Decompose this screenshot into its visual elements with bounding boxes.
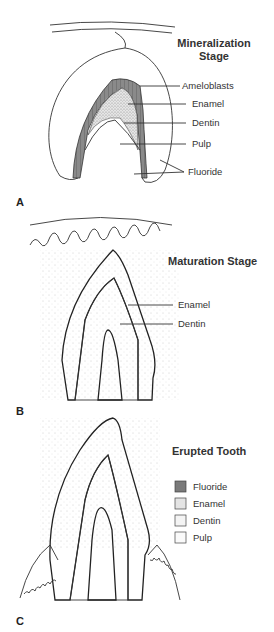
label-pulp: Pulp <box>192 138 211 149</box>
gingiva-left-wavy <box>24 580 56 594</box>
enamel-layer <box>88 88 138 150</box>
gubernacular-cord <box>115 32 126 48</box>
legend-label-enamel: Enamel <box>193 498 225 509</box>
label-dentin: Dentin <box>192 117 219 128</box>
epithelium-line <box>50 22 175 27</box>
oral-epithelium-line <box>30 218 172 226</box>
label-fluoride: Fluoride <box>188 166 222 177</box>
panel-b: Maturation Stage Enamel Dentin B <box>16 218 257 418</box>
gingiva-right <box>148 545 180 600</box>
legend-swatch-enamel <box>175 498 186 509</box>
label-dentin: Dentin <box>178 318 205 329</box>
legend-swatch-pulp <box>175 532 186 543</box>
panel-a: Mineralization Stage Ameloblasts Enamel … <box>16 22 251 208</box>
label-ameloblasts: Ameloblasts <box>182 80 234 91</box>
panel-a-title-line2: Stage <box>199 50 229 62</box>
panel-c-letter: C <box>16 615 24 627</box>
panel-c: Erupted Tooth Fluoride Enamel Dentin Pul… <box>16 418 247 627</box>
epithelium-line <box>52 29 172 33</box>
legend-swatch-fluoride <box>175 481 186 492</box>
surrounding-tissue <box>40 418 160 548</box>
legend-swatch-dentin <box>175 515 186 526</box>
legend: Fluoride Enamel Dentin Pulp <box>175 481 227 543</box>
leader-line <box>160 160 184 172</box>
legend-label-dentin: Dentin <box>193 515 220 526</box>
label-enamel: Enamel <box>178 299 210 310</box>
panel-b-title: Maturation Stage <box>168 255 257 267</box>
wavy-tissue-line <box>30 223 160 246</box>
label-enamel: Enamel <box>192 98 224 109</box>
panel-c-title: Erupted Tooth <box>172 445 247 457</box>
surrounding-tissue <box>40 250 180 400</box>
tooth-development-diagram: Mineralization Stage Ameloblasts Enamel … <box>0 0 274 632</box>
legend-label-pulp: Pulp <box>193 532 212 543</box>
legend-label-fluoride: Fluoride <box>193 481 227 492</box>
panel-a-letter: A <box>16 196 24 208</box>
panel-a-title-line1: Mineralization <box>177 37 251 49</box>
panel-b-letter: B <box>16 405 24 417</box>
gingiva-left <box>20 545 58 598</box>
